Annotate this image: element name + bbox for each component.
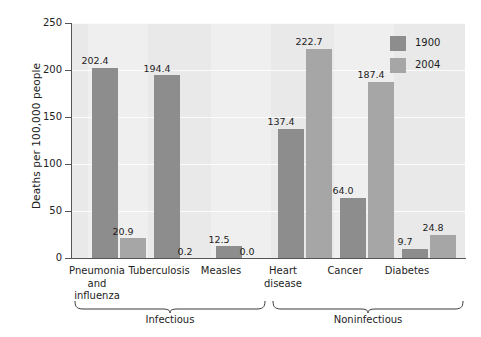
gridline-50 — [72, 211, 465, 212]
category-label-pneumonia-line1: Pneumonia — [65, 265, 129, 278]
y-tick-label-200: 200 — [22, 64, 62, 75]
bar-cancer-1900 — [340, 198, 366, 258]
legend-label-1900: 1900 — [415, 37, 440, 48]
y-tick-label-150: 150 — [22, 111, 62, 122]
x-axis-line — [71, 258, 466, 259]
y-tick-250 — [65, 23, 71, 24]
bar-tuberculosis-1900 — [154, 75, 180, 258]
y-tick-150 — [65, 117, 71, 118]
bar-pneumonia-2004 — [120, 238, 146, 258]
value-cancer-1900: 64.0 — [318, 185, 368, 196]
category-label-cancer: Cancer — [313, 265, 377, 278]
value-measles-2004: 0.0 — [222, 246, 272, 257]
category-label-measles: Measles — [189, 265, 253, 278]
value-pneumonia-1900: 202.4 — [70, 55, 120, 66]
category-label-tuberculosis: Tuberculosis — [127, 265, 191, 278]
legend-swatch-1900-icon — [390, 36, 406, 51]
y-tick-100 — [65, 164, 71, 165]
plot-band-2 — [211, 23, 271, 258]
value-pneumonia-2004: 20.9 — [98, 226, 148, 237]
category-label-heart: Heart disease — [251, 265, 315, 290]
bar-heart-1900 — [278, 129, 304, 258]
legend-swatch-2004-icon — [390, 58, 406, 73]
gridline-100 — [72, 164, 465, 165]
bar-cancer-2004 — [368, 82, 394, 258]
value-measles-1900: 12.5 — [194, 234, 244, 245]
legend-label-2004: 2004 — [415, 59, 440, 70]
gridline-200 — [72, 70, 465, 71]
value-heart-1900: 137.4 — [256, 116, 306, 127]
value-tuberculosis-1900: 194.4 — [132, 63, 182, 74]
group-label-infectious: Infectious — [72, 314, 268, 325]
category-label-diabetes: Diabetes — [375, 265, 439, 278]
value-tuberculosis-2004: 0.2 — [160, 246, 210, 257]
bar-diabetes-2004 — [430, 235, 456, 258]
bar-chart: Deaths per 100,000 people — [0, 0, 481, 337]
value-heart-2004: 222.7 — [284, 36, 334, 47]
gridline-250 — [72, 23, 465, 24]
y-tick-label-50: 50 — [22, 205, 62, 216]
y-tick-label-250: 250 — [22, 17, 62, 28]
group-brace-noninfectious — [270, 300, 466, 314]
value-diabetes-2004: 24.8 — [408, 222, 458, 233]
value-diabetes-1900: 9.7 — [380, 236, 430, 247]
plot-area — [72, 23, 465, 258]
group-brace-infectious — [72, 300, 268, 314]
group-label-noninfectious: Noninfectious — [270, 314, 466, 325]
category-label-pneumonia: Pneumonia and influenza — [65, 265, 129, 303]
y-tick-200 — [65, 70, 71, 71]
y-tick-label-100: 100 — [22, 158, 62, 169]
bar-heart-2004 — [306, 49, 332, 258]
bar-diabetes-1900 — [402, 249, 428, 258]
category-label-pneumonia-line2: and — [65, 278, 129, 291]
y-tick-0 — [65, 258, 71, 259]
value-cancer-2004: 187.4 — [346, 69, 396, 80]
y-tick-label-0: 0 — [22, 252, 62, 263]
y-tick-50 — [65, 211, 71, 212]
category-label-heart-line2: disease — [251, 278, 315, 291]
category-label-heart-line1: Heart — [251, 265, 315, 278]
